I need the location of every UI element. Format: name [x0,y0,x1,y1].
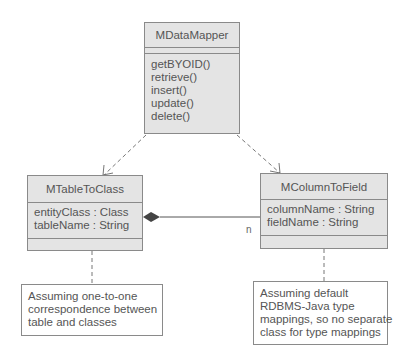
attributes-section: columnName : String fieldName : String [261,200,387,236]
attribute: tableName : String [34,219,142,232]
class-mcolumntofield[interactable]: MColumnToField columnName : String field… [260,173,388,249]
composition-diamond-icon [143,212,160,222]
multiplicity-label: n [246,224,252,235]
attributes-section: entityClass : Class tableName : String [28,203,142,239]
class-name: MDataMapper [145,23,239,48]
note-type-mapping: Assuming default RDBMS-Java type mapping… [253,281,388,345]
operations-section: getBYOID() retrieve() insert() update() … [145,54,239,123]
attribute: entityClass : Class [34,206,142,219]
composition-association [143,212,260,222]
note-table-mapping: Assuming one-to-one correspondence betwe… [21,284,163,336]
note-line: Assuming one-to-one [28,290,156,303]
operations-section [261,236,387,239]
operations-section [28,239,142,242]
class-mtabletoclass[interactable]: MTableToClass entityClass : Class tableN… [27,175,143,251]
dependency-arrow-to-table-to-class [103,135,146,175]
operation: getBYOID() [151,58,239,71]
class-name: MColumnToField [261,174,387,200]
operation: delete() [151,110,239,123]
attribute: columnName : String [267,203,387,216]
note-line: correspondence between [28,303,156,316]
operation: retrieve() [151,71,239,84]
operation: update() [151,97,239,110]
note-line: RDBMS-Java type [260,300,381,313]
note-line: Assuming default [260,287,381,300]
note-line: mappings, so no separate [260,313,381,326]
note-line: class for type mappings [260,326,381,339]
attribute: fieldName : String [267,216,387,229]
dependency-arrow-to-column-to-field [237,135,280,173]
operation: insert() [151,84,239,97]
class-name: MTableToClass [28,176,142,203]
class-mdatamapper[interactable]: MDataMapper getBYOID() retrieve() insert… [144,22,240,134]
note-line: table and classes [28,316,156,329]
